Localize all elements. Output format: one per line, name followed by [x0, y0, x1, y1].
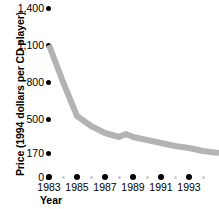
price-line-path	[49, 45, 219, 153]
x-tick-dot-minor	[118, 176, 121, 179]
x-tick-dot-major	[130, 174, 136, 180]
x-tick-dot-major	[46, 174, 52, 180]
x-tick-label: 1993	[169, 182, 209, 193]
x-tick-dot-minor	[202, 176, 205, 179]
cd-player-price-chart: Price (1994 dollars per CD player) 1,400…	[0, 0, 219, 209]
x-tick-dot-major	[158, 174, 164, 180]
x-tick-dot-major	[186, 174, 192, 180]
x-tick-dot-major	[74, 174, 80, 180]
x-tick-dot-minor	[174, 176, 177, 179]
x-tick-dot-minor	[62, 176, 65, 179]
x-tick-dot-minor	[146, 176, 149, 179]
x-axis-title: Year	[31, 194, 71, 206]
x-tick-dot-minor	[90, 176, 93, 179]
x-tick-dot-major	[102, 174, 108, 180]
